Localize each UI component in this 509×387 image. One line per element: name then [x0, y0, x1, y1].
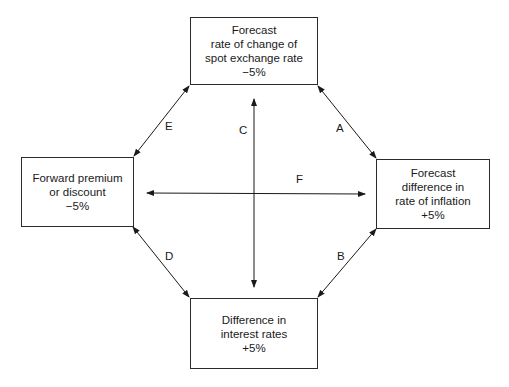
node-line: spot exchange rate	[205, 51, 303, 65]
node-line: +5%	[242, 341, 265, 355]
arrow-b	[318, 229, 376, 297]
edge-label-d: D	[165, 250, 173, 262]
node-line: Forward premium	[32, 171, 122, 185]
node-line: Difference in	[222, 313, 286, 327]
arrow-d	[133, 227, 189, 297]
node-line: −5%	[242, 65, 265, 79]
arrow-e	[134, 86, 189, 156]
node-spot-exchange-rate: Forecast rate of change of spot exchange…	[190, 17, 318, 85]
node-line: interest rates	[221, 327, 287, 341]
node-line: +5%	[421, 208, 444, 222]
node-line: −5%	[66, 199, 89, 213]
node-inflation-difference: Forecast difference in rate of inflation…	[376, 159, 490, 229]
edge-label-a: A	[336, 122, 344, 134]
edge-label-f: F	[296, 173, 303, 185]
edge-label-e: E	[165, 120, 173, 132]
node-interest-rate-difference: Difference in interest rates +5%	[190, 298, 318, 369]
edge-label-b: B	[337, 250, 345, 262]
node-forward-premium: Forward premium or discount −5%	[21, 157, 134, 227]
arrow-a	[318, 86, 376, 158]
node-line: difference in	[402, 180, 464, 194]
edge-label-c: C	[239, 124, 247, 136]
node-line: Forecast	[232, 23, 277, 37]
node-line: Forecast	[411, 166, 456, 180]
node-line: rate of change of	[211, 37, 297, 51]
arrow-f	[147, 193, 365, 194]
node-line: or discount	[49, 185, 105, 199]
node-line: rate of inflation	[395, 194, 470, 208]
